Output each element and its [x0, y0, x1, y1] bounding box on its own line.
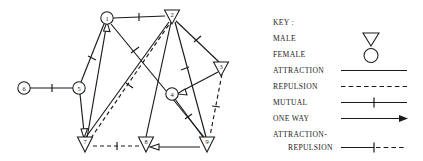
node-1-label: 1 [105, 15, 108, 22]
female-circle-icon [364, 49, 378, 63]
node-9-label: 9 [205, 138, 208, 145]
legend-label-attraction-repulsion-2: REPULSION [288, 143, 333, 152]
legend-label-attraction-repulsion-1: ATTRACTION- [273, 130, 327, 139]
edge-2-3 [176, 21, 219, 62]
edge-3-4 [182, 72, 218, 91]
node-1[interactable]: 1 [101, 12, 113, 24]
edge-4-9 [175, 99, 203, 137]
node-group: 1 2 3 4 5 6 [18, 10, 229, 152]
arrowhead-9-8 [150, 144, 159, 150]
node-8[interactable]: 8 [139, 137, 154, 152]
sociogram-graph: 1 2 3 4 5 6 [0, 0, 260, 161]
male-triangle-icon [363, 33, 379, 46]
one-way-arrowhead-icon [399, 115, 408, 122]
node-6[interactable]: 6 [18, 82, 30, 94]
node-7[interactable]: 7 [78, 137, 93, 152]
tick-3-9 [212, 106, 220, 107]
legend-label-mutual: MUTUAL [273, 98, 308, 107]
node-5-label: 5 [77, 85, 80, 92]
node-5[interactable]: 5 [73, 82, 85, 94]
legend-label-attraction: ATTRACTION [273, 66, 324, 75]
tick-5-1 [88, 56, 96, 60]
node-8-label: 8 [144, 138, 147, 145]
legend-title: KEY : [273, 18, 294, 27]
legend-label-male: MALE [273, 34, 296, 43]
legend: KEY : MALE FEMALE ATTRACTION REPULSION M… [255, 0, 423, 161]
edge-5-1 [81, 24, 104, 82]
node-9[interactable]: 9 [200, 137, 215, 152]
edge-group [30, 13, 222, 150]
legend-label-female: FEMALE [273, 50, 305, 59]
edge-5-7 [80, 94, 84, 132]
legend-label-repulsion: REPULSION [273, 82, 318, 91]
legend-label-one-way: ONE WAY [273, 114, 310, 123]
node-3[interactable]: 3 [214, 62, 229, 76]
node-6-label: 6 [22, 85, 25, 92]
edge-3-9 [210, 74, 222, 136]
node-4[interactable]: 4 [166, 88, 178, 100]
sociogram-figure: 1 2 3 4 5 6 [0, 0, 423, 161]
node-2-label: 2 [170, 11, 173, 18]
node-3-label: 3 [219, 63, 222, 70]
